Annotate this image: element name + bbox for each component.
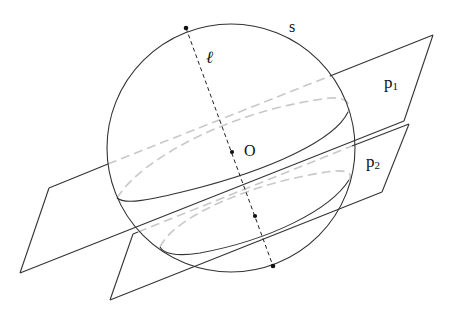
label-plane-p1-sub: 1: [393, 80, 399, 92]
section-p1: [117, 98, 349, 201]
label-plane-p2: p2: [366, 152, 380, 171]
bottom-pole-point: [271, 264, 276, 269]
label-line-l: ℓ: [206, 48, 213, 67]
plane-p2-bottom-edge: [110, 192, 382, 300]
plane-p2-top-edge-left: [133, 232, 138, 234]
plane-p1-top-edge-hidden: [108, 76, 330, 164]
plane-p2-right-edge: [382, 124, 409, 192]
geometry-diagram: ℓ O s p1 p2: [0, 0, 452, 320]
plane-p1-right-edge: [404, 35, 433, 121]
plane-p1-left-edge: [20, 188, 49, 273]
center-point-o: [230, 150, 234, 154]
plane-p2-top-edge-right: [352, 124, 409, 146]
label-plane-p2-sub: 2: [375, 159, 381, 171]
label-center-o: O: [244, 142, 256, 159]
plane-p1-top-edge-left: [49, 164, 108, 188]
axis-line-l: [186, 28, 273, 266]
label-plane-p2-main: p: [366, 152, 375, 171]
section-p1-back-arc: [117, 98, 349, 198]
top-pole-point: [184, 26, 189, 31]
plane-p2-left-edge: [110, 234, 133, 300]
sphere-outline: [107, 24, 355, 272]
section-p2-back-arc: [160, 171, 350, 247]
label-plane-p1-main: p: [384, 73, 393, 92]
plane-p2: [110, 124, 409, 300]
plane-p1-top-edge-right: [330, 35, 433, 76]
label-sphere-s: s: [289, 18, 295, 35]
label-plane-p1: p1: [384, 73, 398, 92]
lower-point: [253, 214, 257, 218]
